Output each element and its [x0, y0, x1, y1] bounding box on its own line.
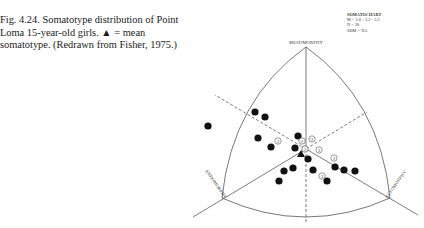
multi-point: 2: [302, 146, 308, 152]
data-points: [204, 108, 358, 184]
multi-point: 2: [299, 138, 305, 144]
somatochart: MESOMORPHY ENDOMORPHY ECTOMORPHY 2 2 2 2…: [0, 0, 424, 228]
data-point: [323, 177, 330, 184]
data-point: [331, 163, 338, 170]
data-point: [304, 155, 311, 162]
multi-point: 2: [275, 138, 281, 144]
data-point: [351, 167, 358, 174]
multi-point: 2: [331, 155, 337, 161]
svg-text:2: 2: [277, 139, 279, 144]
data-point: [340, 166, 347, 173]
data-point: [289, 164, 296, 171]
data-point: [291, 144, 298, 151]
data-point: [261, 113, 268, 120]
multi-point: 2: [309, 136, 315, 142]
multi-point: 2: [316, 147, 322, 153]
svg-text:2: 2: [301, 139, 303, 144]
data-point: [254, 134, 261, 141]
axis-label-endomorphy: ENDOMORPHY: [204, 169, 228, 200]
data-point: [280, 167, 287, 174]
svg-text:2: 2: [311, 137, 313, 142]
axis-label-mesomorphy: MESOMORPHY: [289, 40, 323, 45]
solid-axes: [193, 47, 418, 217]
svg-text:2: 2: [318, 148, 320, 153]
svg-text:2: 2: [304, 147, 306, 152]
dashed-axes: [215, 95, 367, 223]
data-point: [275, 177, 282, 184]
data-point: [251, 108, 258, 115]
data-point: [309, 166, 316, 173]
svg-text:2: 2: [321, 174, 323, 179]
data-point: [204, 122, 211, 129]
multi-point: 2: [319, 173, 325, 179]
data-point: [267, 143, 274, 150]
svg-text:2: 2: [333, 156, 335, 161]
axis-label-ectomorphy: ECTOMORPHY: [384, 169, 407, 199]
